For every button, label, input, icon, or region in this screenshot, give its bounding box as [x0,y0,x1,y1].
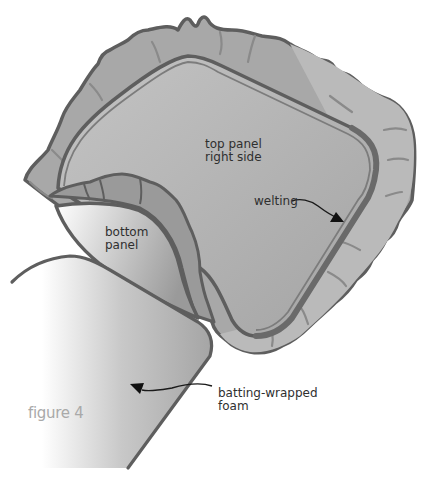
figure-caption: figure 4 [28,404,83,422]
label-batting-wrapped-foam: batting-wrapped foam [218,387,318,413]
label-bottom-panel: bottom panel [105,226,148,252]
label-welting: welting [254,195,298,208]
label-top-panel: top panel right side [205,138,262,164]
